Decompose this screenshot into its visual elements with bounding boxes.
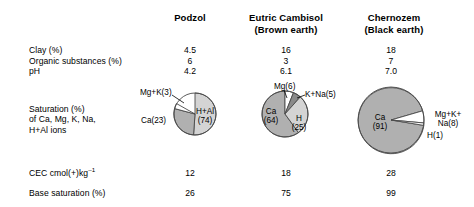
- row-label-base-saturation-text: Base saturation (%): [29, 188, 105, 198]
- pie-label-chernozem-ca-value: (91): [373, 122, 388, 131]
- cell-cec-podzol: 12: [155, 168, 225, 178]
- cell-ph-eutric-cambisol: 6.1: [251, 66, 321, 76]
- pie-label-chernozem-ca: Ca (91): [367, 113, 393, 131]
- column-header-chernozem: Chernozem (Black earth): [344, 12, 444, 35]
- pie-label-eutric-cambisol-ca-name: Ca: [266, 107, 276, 116]
- row-label-saturation-line-1: Saturation (%): [29, 104, 96, 114]
- pie-label-podzol-mg-k: Mg+K(3): [140, 88, 172, 97]
- cell-organic-eutric-cambisol: 3: [251, 56, 321, 66]
- row-label-organic-substances: Organic substances (%): [29, 56, 122, 66]
- pie-label-podzol-h-al-name: H+Al: [196, 107, 214, 116]
- cell-cec-chernozem: 28: [356, 168, 426, 178]
- row-label-cec-exponent: –1: [88, 166, 95, 173]
- column-header-eutric-cambisol: Eutric Cambisol (Brown earth): [236, 12, 336, 35]
- pie-label-eutric-cambisol-ca-value: (64): [264, 116, 279, 125]
- row-label-saturation: Saturation (%) of Ca, Mg, K, Na, H+Al io…: [29, 104, 96, 135]
- pie-label-chernozem-h: H(1): [427, 131, 443, 140]
- cell-ph-podzol: 4.2: [155, 66, 225, 76]
- cell-base-saturation-podzol: 26: [155, 188, 225, 198]
- figure-root: Podzol Eutric Cambisol (Brown earth) Che…: [0, 0, 474, 207]
- column-header-eutric-cambisol-title: Eutric Cambisol: [249, 12, 323, 23]
- row-label-clay: Clay (%): [29, 45, 62, 55]
- pie-label-chernozem-mg-k-na: Mg+K+ Na(8): [427, 110, 469, 129]
- pie-label-eutric-cambisol-k-na-text: K+Na(5): [305, 90, 336, 99]
- row-label-clay-text: Clay (%): [29, 45, 62, 55]
- pie-label-podzol-ca: Ca(23): [141, 116, 166, 125]
- row-label-cec: CEC cmol(+)kg–1: [29, 168, 95, 178]
- cell-clay-eutric-cambisol: 16: [251, 45, 321, 55]
- row-label-base-saturation: Base saturation (%): [29, 188, 105, 198]
- pie-label-eutric-cambisol-h: H (25): [288, 114, 310, 132]
- cell-base-saturation-chernozem: 99: [356, 188, 426, 198]
- column-header-chernozem-title: Chernozem: [368, 12, 421, 23]
- column-header-chernozem-subtitle: (Black earth): [344, 24, 444, 36]
- row-label-organic-substances-text: Organic substances (%): [29, 56, 122, 66]
- pie-label-chernozem-ca-name: Ca: [375, 113, 385, 122]
- cell-clay-podzol: 4.5: [155, 45, 225, 55]
- row-label-ph: pH: [29, 66, 40, 76]
- column-header-podzol-title: Podzol: [174, 12, 206, 23]
- row-label-ph-text: pH: [29, 66, 40, 76]
- pie-label-chernozem-mg-k-na-line-1: Mg+K+: [435, 110, 461, 119]
- row-label-cec-text: CEC cmol(+)kg: [29, 168, 88, 178]
- cell-cec-eutric-cambisol: 18: [251, 168, 321, 178]
- pie-label-podzol-mg-k-text: Mg+K(3): [140, 88, 172, 97]
- pie-label-chernozem-mg-k-na-line-2: Na(8): [438, 119, 458, 128]
- pie-label-eutric-cambisol-ca: Ca (64): [258, 107, 284, 125]
- pie-label-podzol-ca-text: Ca(23): [141, 116, 166, 125]
- pie-label-podzol-h-al: H+Al (74): [188, 107, 222, 125]
- pie-label-eutric-cambisol-k-na: K+Na(5): [305, 90, 336, 99]
- pie-label-eutric-cambisol-h-value: (25): [292, 123, 307, 132]
- cell-base-saturation-eutric-cambisol: 75: [251, 188, 321, 198]
- row-label-saturation-line-3: H+Al ions: [29, 125, 96, 135]
- pie-label-podzol-h-al-value: (74): [198, 116, 213, 125]
- row-label-saturation-line-2: of Ca, Mg, K, Na,: [29, 114, 96, 124]
- pie-leader-podzol-mg-k: [172, 94, 196, 108]
- column-header-eutric-cambisol-subtitle: (Brown earth): [236, 24, 336, 36]
- pie-label-eutric-cambisol-h-name: H: [296, 114, 302, 123]
- pie-label-chernozem-h-text: H(1): [427, 131, 443, 140]
- cell-clay-chernozem: 18: [356, 45, 426, 55]
- column-header-podzol: Podzol: [152, 12, 228, 24]
- cell-organic-podzol: 6: [155, 56, 225, 66]
- pie-leader-eutric-cambisol-k-na: [295, 93, 309, 103]
- cell-ph-chernozem: 7.0: [356, 66, 426, 76]
- cell-organic-chernozem: 7: [356, 56, 426, 66]
